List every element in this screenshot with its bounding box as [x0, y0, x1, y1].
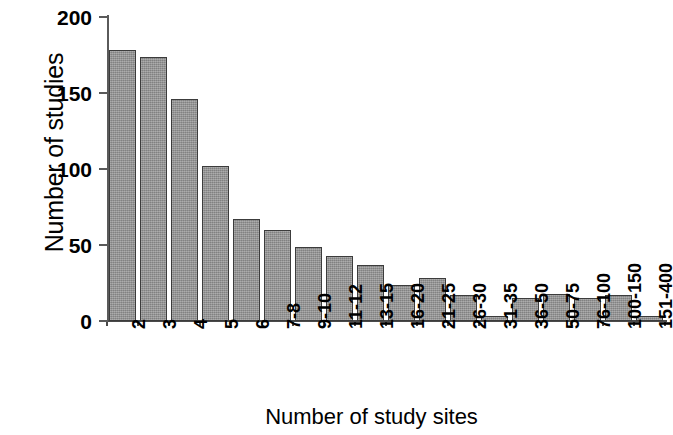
x-axis-title: Number of study sites [0, 404, 673, 430]
x-axis-tick-label: 100-150 [626, 263, 644, 329]
x-axis-tick-label: 16-20 [409, 283, 427, 329]
x-axis-tick-label: 21-25 [440, 283, 458, 329]
x-axis-tick-label: 50-75 [564, 283, 582, 329]
x-axis-tick-label: 7-8 [285, 303, 303, 329]
x-axis-tick-label: 6 [254, 319, 272, 329]
x-axis-tick-label: 26-30 [471, 283, 489, 329]
y-axis-tick-label: 200 [40, 7, 92, 28]
plot-area [107, 17, 665, 321]
x-axis-tick-label: 11-12 [347, 284, 365, 329]
y-axis-tick-label: 0 [40, 311, 92, 332]
x-axis-tick-label: 3 [161, 319, 179, 329]
bar [171, 99, 197, 321]
x-axis-tick-label: 4 [192, 319, 210, 329]
y-axis-tick-label: 100 [40, 159, 92, 180]
y-axis-tick-label: 150 [40, 83, 92, 104]
y-axis-tick-label: 50 [40, 235, 92, 256]
x-axis-tick-label: 31-35 [502, 283, 520, 329]
bar [109, 50, 135, 321]
bar [140, 57, 166, 321]
x-axis-tick-label: 13-15 [378, 283, 396, 329]
bar [202, 166, 228, 321]
x-axis-tick-label: 2 [130, 319, 148, 329]
x-axis-tick-label: 36-50 [533, 283, 551, 329]
x-axis-tick-label: 151-400 [657, 263, 673, 329]
y-axis-title: Number of studies [40, 3, 69, 303]
x-axis-tick [106, 322, 108, 326]
x-axis-tick-label: 76-100 [595, 273, 613, 329]
x-axis-tick-label: 5 [223, 319, 241, 329]
bar [233, 219, 259, 321]
bar-chart-figure: Number of studies 050100150200 234567-89… [0, 0, 673, 435]
x-axis-tick-label: 9-10 [316, 293, 334, 329]
